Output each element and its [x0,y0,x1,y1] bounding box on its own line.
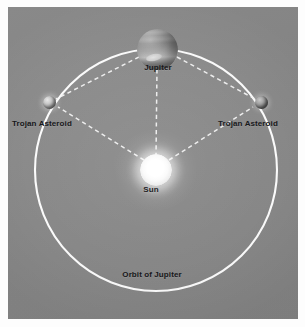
connector-jupiter-to-trojan-right [177,57,255,99]
diagram-figure: Jupiter Sun Trojan Asteroid Trojan Aster… [0,0,305,327]
connector-sun-to-jupiter [156,67,157,157]
label-sun: Sun [143,185,158,194]
sun-body [140,154,172,186]
label-trojan-asteroid-left: Trojan Asteroid [12,119,72,128]
label-jupiter: Jupiter [144,63,171,72]
label-trojan-asteroid-right: Trojan Asteroid [218,119,278,128]
trojan-asteroid-right [255,96,268,109]
jupiter-spot-icon [145,52,162,62]
connector-sun-to-trojan-left [58,107,144,160]
connector-sun-to-trojan-right [169,107,253,160]
trojan-asteroid-left [43,96,56,109]
diagram-panel: Jupiter Sun Trojan Asteroid Trojan Aster… [8,7,298,319]
label-orbit-of-jupiter: Orbit of Jupiter [122,270,181,279]
